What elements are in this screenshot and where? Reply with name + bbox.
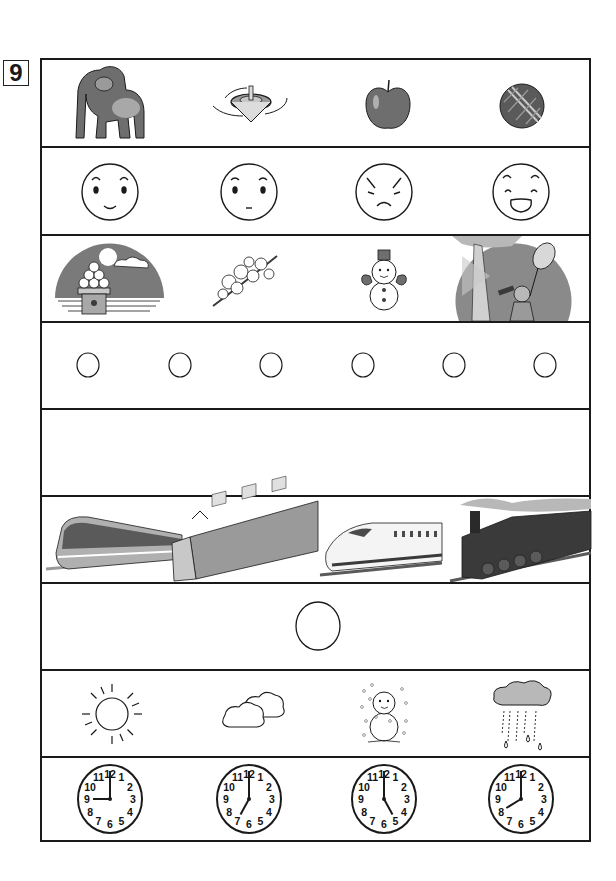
rainy-icon: [494, 681, 551, 750]
clock-number: 6: [107, 818, 113, 830]
clock-number: 6: [518, 818, 524, 830]
row-blank: [42, 410, 589, 495]
clock-number: 11: [232, 771, 243, 783]
clock-number: 7: [235, 815, 241, 827]
clock-number: 4: [127, 806, 133, 818]
bug-catching-child-icon: [452, 236, 572, 321]
laughing-face-icon: [493, 164, 549, 220]
clock-9-oclock-icon: 121234567891011: [78, 765, 142, 833]
clock-number: 2: [538, 781, 544, 793]
clock-number: 6: [246, 818, 252, 830]
cherry-blossom-icon: [213, 256, 277, 306]
steam-locomotive-icon: [450, 498, 591, 581]
shinkansen-icon: [320, 523, 442, 575]
answer-circle-5[interactable]: [443, 353, 465, 377]
clock-number: 1: [258, 771, 264, 783]
row-weather: [42, 671, 589, 756]
clock-number: 3: [541, 793, 547, 805]
angry-face-icon: [356, 164, 412, 220]
answer-circle-4[interactable]: [352, 353, 374, 377]
clock-8-oclock-icon: 121234567891011: [489, 765, 553, 833]
row-pictures: [42, 60, 589, 147]
clock-number: 7: [370, 815, 376, 827]
clock-number: 4: [266, 806, 272, 818]
temari-ball-icon: [500, 84, 544, 128]
clock-number: 8: [226, 806, 232, 818]
answer-circle-6[interactable]: [534, 353, 556, 377]
clock-5-oclock-icon: 121234567891011: [352, 765, 416, 833]
clock-number: 1: [530, 771, 536, 783]
answer-circle-1[interactable]: [77, 353, 99, 377]
sun-icon: [82, 684, 142, 744]
clock-number: 5: [258, 815, 264, 827]
clock-7-oclock-icon: 121234567891011: [217, 765, 281, 833]
clock-number: 3: [404, 793, 410, 805]
clock-number: 11: [367, 771, 378, 783]
clock-number: 3: [130, 793, 136, 805]
answer-circle[interactable]: [296, 602, 340, 650]
clock-number: 1: [119, 771, 125, 783]
answer-circle-2[interactable]: [169, 353, 191, 377]
clock-number: 11: [504, 771, 515, 783]
clock-number: 5: [119, 815, 125, 827]
clock-number: 9: [495, 793, 501, 805]
clock-number: 2: [127, 781, 133, 793]
apple-icon: [366, 80, 410, 128]
question-number: 9: [3, 60, 29, 86]
clock-number: 8: [87, 806, 93, 818]
row-seasons: [42, 236, 589, 321]
neutral-face-icon: [221, 164, 277, 220]
clock-number: 9: [358, 793, 364, 805]
clock-number: 2: [266, 781, 272, 793]
clock-number: 5: [393, 815, 399, 827]
clock-number: 7: [96, 815, 102, 827]
snowy-icon: [361, 684, 408, 742]
clock-number: 9: [84, 793, 90, 805]
row-answer-circle: [42, 584, 589, 669]
answer-circle-3[interactable]: [260, 353, 282, 377]
gorilla-icon: [76, 67, 144, 138]
limited-express-train-icon: [46, 517, 182, 569]
moon-viewing-dango-icon: [55, 244, 164, 315]
spinning-top-icon: [213, 86, 287, 122]
clock-number: 4: [401, 806, 407, 818]
row-clocks: 1212345678910111212345678910111212345678…: [42, 758, 589, 840]
snowman-icon: [362, 250, 407, 310]
row-answer-circles: [42, 323, 589, 408]
clock-number: 2: [401, 781, 407, 793]
clock-number: 1: [393, 771, 399, 783]
clock-number: 3: [269, 793, 275, 805]
clock-number: 9: [223, 793, 229, 805]
row-faces: [42, 148, 589, 234]
row-trains: [42, 497, 589, 582]
clock-number: 7: [507, 815, 513, 827]
clock-number: 8: [498, 806, 504, 818]
cloudy-icon: [223, 692, 284, 727]
clock-number: 8: [361, 806, 367, 818]
happy-face-icon: [82, 164, 138, 220]
clock-number: 5: [530, 815, 536, 827]
clock-number: 11: [93, 771, 104, 783]
clock-number: 4: [538, 806, 544, 818]
clock-number: 6: [381, 818, 387, 830]
worksheet-frame: 1212345678910111212345678910111212345678…: [40, 58, 591, 842]
